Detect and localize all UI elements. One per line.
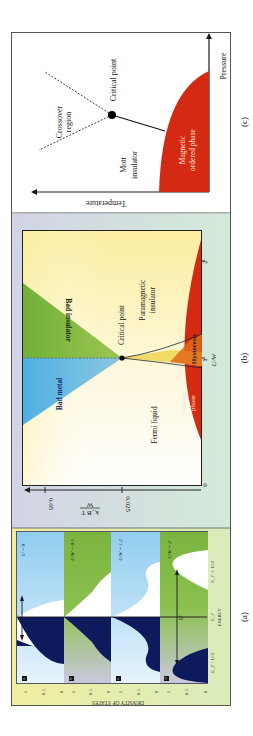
critical-point-marker — [108, 111, 116, 119]
y-tick-0.05: 0.05 — [47, 498, 55, 511]
bad-metal-label: Bad metal — [55, 378, 64, 411]
critical-point-label-b: Critical point — [117, 304, 126, 345]
subpanel-d-label: U/W = 2 — [167, 541, 172, 559]
figure: Pressure Temperature Crossover region Cr… — [0, 0, 253, 736]
x-tick-2: 2 — [201, 260, 209, 264]
temperature-label: Temperature — [85, 199, 126, 208]
dos-tick-0.5-a: 0.5 — [41, 688, 46, 695]
dos-tick-0.5-b: 0.5 — [88, 688, 93, 695]
tag-d: d — [163, 678, 168, 680]
para-label-2: insulator — [148, 286, 157, 313]
x-tick-0: 0 — [201, 483, 209, 487]
ordered-label-b2: phase — [189, 395, 197, 411]
caption-b: (b) — [239, 353, 249, 364]
uc1-label: U_c1 — [174, 365, 182, 380]
fermi-liquid-label: Fermi liquid — [150, 406, 159, 444]
ordered-label-b1: Ordered — [180, 391, 188, 414]
dos-axis-label: DENSITY OF STATES — [92, 700, 144, 706]
crossover-label-1: Crossover — [55, 105, 64, 138]
critical-point-label: Critical point — [109, 58, 118, 101]
critical-point-marker-b — [119, 355, 124, 360]
tag-b: b — [68, 678, 73, 680]
uc2-label: U_c2 — [174, 327, 182, 343]
crossover-label-2: region — [64, 112, 73, 132]
ordered-label-2: ordered phase — [188, 128, 197, 171]
energy-tick-low: E_F - U/2 — [210, 652, 215, 674]
hysteresis-label: Hysteresis — [190, 333, 198, 364]
dos-tick-0.5-c: 0.5 — [136, 688, 141, 695]
mott-label-1: Mott — [119, 156, 128, 172]
panel-a: W U a b c d U = 0 U/W = 0.5 U/W = 1.2 U/… — [12, 528, 249, 706]
subpanel-a-label: U = 0 — [21, 544, 26, 556]
energy-tick-ef: E_F — [210, 612, 215, 623]
tag-c: c — [115, 677, 120, 679]
x-axis-label: U/W — [210, 352, 218, 366]
energy-tick-high: E_F + U/2 — [210, 561, 215, 584]
para-label-1: Paramagnetic — [138, 279, 147, 320]
y-axis-label-den: W — [86, 501, 93, 509]
y-axis-label-num: k_B T — [80, 509, 98, 517]
panel-b: 0.05 0.025 k_B T W 0 1 2 U/W Bad metal B… — [12, 214, 249, 529]
subpanel-b-label: U/W = 0.5 — [70, 539, 75, 561]
subpanel-c-label: U/W = 1.2 — [118, 539, 123, 561]
pressure-label: Pressure — [219, 52, 228, 80]
energy-axis-label: ENERGY — [217, 607, 222, 626]
panel-c: Pressure Temperature Crossover region Cr… — [12, 33, 249, 213]
bad-insulator-label: Bad insulator — [64, 298, 73, 342]
caption-c: (c) — [239, 117, 249, 127]
caption-a: (a) — [239, 612, 249, 622]
mott-label-2: insulator — [130, 151, 139, 179]
tag-a: a — [21, 677, 26, 679]
y-tick-0.025: 0.025 — [124, 496, 132, 512]
ordered-label-1: Magnetic — [178, 135, 187, 164]
dos-tick-0.5-d: 0.5 — [184, 688, 189, 695]
